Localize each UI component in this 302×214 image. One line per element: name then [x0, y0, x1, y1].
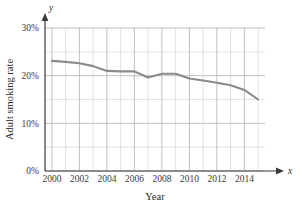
y-tick-label: 20% [22, 71, 40, 81]
x-tick-label: 2002 [70, 174, 89, 184]
x-tick-label: 2012 [207, 174, 226, 184]
x-tick-label: 2010 [180, 174, 199, 184]
x-tick-label: 2008 [152, 174, 171, 184]
line-chart: 20002002200420062008201020122014 0%10%20… [0, 0, 302, 214]
y-tick-label: 30% [22, 23, 40, 33]
y-tick-label: 10% [22, 119, 40, 129]
chart-figure: 20002002200420062008201020122014 0%10%20… [0, 0, 302, 214]
y-tick-label: 0% [26, 166, 39, 176]
x-tick-label: 2004 [97, 174, 116, 184]
x-tick-label: 2000 [42, 174, 61, 184]
y-axis-variable-label: y [48, 3, 54, 13]
x-axis-variable-label: x [287, 166, 293, 176]
x-tick-label: 2006 [125, 174, 144, 184]
x-tick-label: 2014 [235, 174, 254, 184]
y-axis-title: Adult smoking rate [4, 59, 15, 140]
x-axis-title: Year [145, 191, 165, 202]
